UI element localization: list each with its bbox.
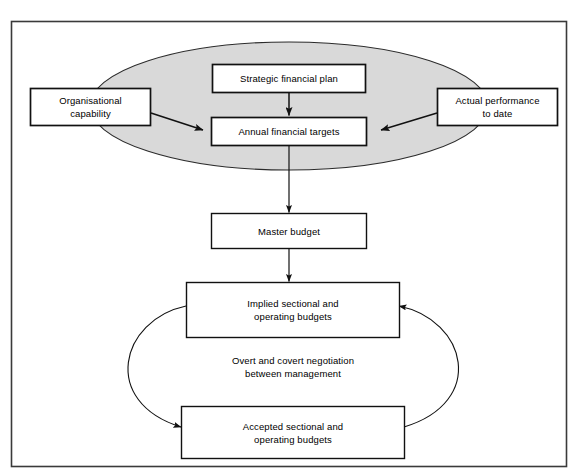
- node-box-implied-sectional-and-operating-budgets[interactable]: [187, 283, 400, 338]
- node-box-accepted-sectional-and-operating-budgets[interactable]: [182, 407, 405, 459]
- diagram-canvas: Strategic financial plan Organisational …: [0, 0, 579, 475]
- node-box-actual-performance-to-date[interactable]: [438, 89, 558, 126]
- node-box-master-budget[interactable]: [212, 214, 367, 249]
- node-box-organisational-capability[interactable]: [31, 89, 151, 126]
- node-box-strategic-financial-plan[interactable]: [213, 65, 366, 93]
- edge-implied-to-accepted-left-curve: [128, 306, 186, 427]
- edge-accepted-to-implied-right-curve: [399, 306, 459, 427]
- node-box-annual-financial-targets[interactable]: [212, 118, 367, 146]
- diagram-graphics: [0, 0, 579, 475]
